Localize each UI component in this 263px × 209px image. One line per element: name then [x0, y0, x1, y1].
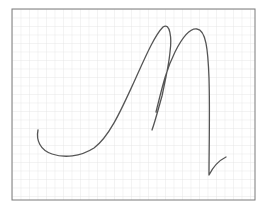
drawing-canvas[interactable] [0, 0, 263, 209]
grid-paper [12, 9, 255, 200]
